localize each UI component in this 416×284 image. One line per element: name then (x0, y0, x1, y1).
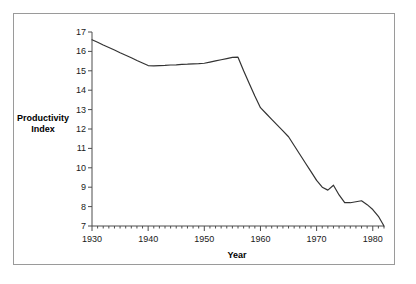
data-series-group (92, 40, 384, 226)
data-series-line (92, 40, 384, 226)
y-axis-title-line2: Index (12, 124, 74, 135)
y-axis-tick-label: 16 (68, 46, 86, 56)
x-axis (92, 226, 384, 231)
y-axis-tick-label: 10 (68, 163, 86, 173)
x-axis-tick-label: 1980 (353, 234, 393, 244)
y-axis-tick-label: 14 (68, 85, 86, 95)
x-axis-title: Year (92, 250, 382, 260)
y-axis (88, 32, 92, 226)
y-axis-tick-label: 8 (68, 202, 86, 212)
x-axis-tick-label: 1940 (128, 234, 168, 244)
x-axis-tick-label: 1950 (184, 234, 224, 244)
chart-figure: 7891011121314151617 19301940195019601970… (0, 0, 416, 284)
y-axis-tick-label: 15 (68, 66, 86, 76)
y-axis-tick-label: 9 (68, 182, 86, 192)
y-axis-tick-label: 11 (68, 143, 86, 153)
y-axis-title: Productivity Index (12, 113, 74, 135)
y-axis-tick-label: 17 (68, 27, 86, 37)
y-axis-tick-label: 7 (68, 221, 86, 231)
x-axis-tick-label: 1960 (240, 234, 280, 244)
y-axis-title-line1: Productivity (12, 113, 74, 124)
x-axis-tick-label: 1970 (297, 234, 337, 244)
y-axis-ticks (88, 32, 92, 226)
x-axis-ticks (92, 226, 384, 231)
x-axis-tick-label: 1930 (72, 234, 112, 244)
